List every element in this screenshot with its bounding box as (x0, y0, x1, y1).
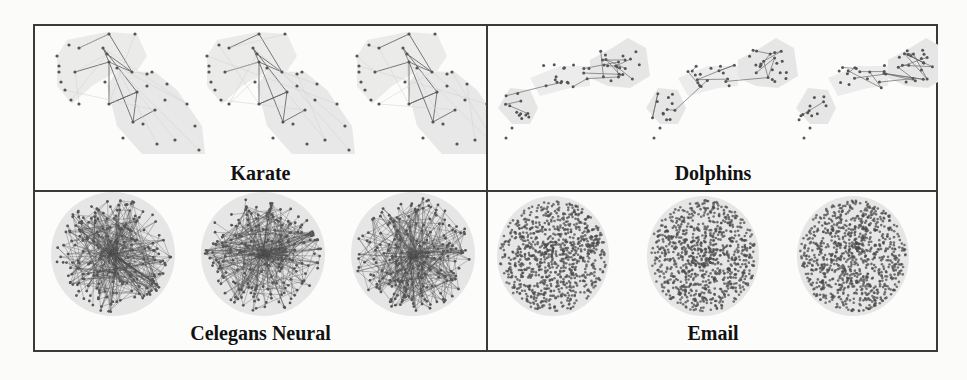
panel-karate: Karate (35, 26, 486, 190)
panel-label-karate: Karate (35, 162, 486, 185)
panel-label-email: Email (488, 322, 938, 345)
panel-label-celegans: Celegans Neural (35, 322, 486, 345)
network-layout-figure: Karate Dolphins Celegans Neural Email (33, 24, 938, 352)
panel-dolphins: Dolphins (488, 26, 938, 190)
panel-celegans-neural: Celegans Neural (35, 192, 486, 352)
panel-email: Email (488, 192, 938, 352)
panel-label-dolphins: Dolphins (488, 162, 938, 185)
